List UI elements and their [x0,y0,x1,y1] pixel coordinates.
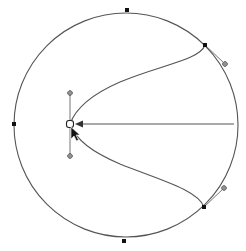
anchor-left[interactable] [12,122,16,126]
anchor-bottom[interactable] [122,239,126,243]
canvas-background [0,0,246,251]
center-node[interactable] [67,121,74,128]
anchor-top[interactable] [125,8,129,12]
anchor-upper-right[interactable] [203,43,207,47]
path-editor-canvas[interactable] [0,0,246,251]
anchor-lower-right[interactable] [202,205,206,209]
